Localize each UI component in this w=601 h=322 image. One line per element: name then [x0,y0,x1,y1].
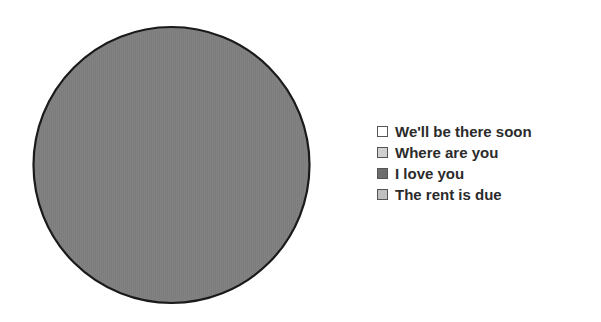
legend-label-1: We'll be there soon [395,124,532,140]
legend-label-2: Where are you [395,145,498,161]
pie-chart-figure: We'll be there soon Where are you I love… [0,0,601,322]
legend-item-where-are-you[interactable]: Where are you [377,142,597,163]
legend-label-4: The rent is due [395,187,502,203]
legend-swatch-icon-4 [377,189,388,200]
legend-swatch-icon-3 [377,168,388,179]
legend-swatch-icon-1 [377,126,388,137]
legend: We'll be there soon Where are you I love… [377,121,597,205]
legend-item-i-love-you[interactable]: I love you [377,163,597,184]
legend-item-the-rent-is-due[interactable]: The rent is due [377,184,597,205]
legend-swatch-icon-2 [377,147,388,158]
legend-label-3: I love you [395,166,464,182]
legend-item-well-be-there-soon[interactable]: We'll be there soon [377,121,597,142]
pie-svg [0,0,350,322]
pie-plot-area [0,0,350,322]
pie-slice-well-be-there-soon[interactable] [34,27,310,303]
